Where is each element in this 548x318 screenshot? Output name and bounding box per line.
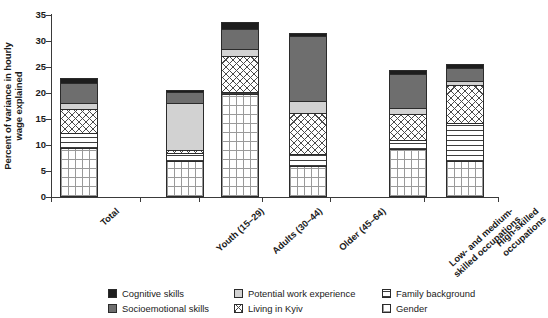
x-axis-label-line: Youth (15–29) (214, 206, 266, 254)
legend-item-pot[interactable]: Potential work experience (234, 286, 382, 301)
bar-segment-gen[interactable] (289, 166, 327, 197)
x-axis-label-3: Older (45–64) (337, 206, 388, 253)
bar-segment-soc[interactable] (446, 68, 484, 81)
x-axis-label-line: Older (45–64) (337, 206, 388, 253)
x-axis-label-1: Youth (15–29) (214, 206, 266, 254)
bar-segment-kyiv[interactable] (389, 114, 427, 140)
legend-swatch-cog-icon (108, 289, 117, 298)
y-tick-10 (46, 145, 51, 146)
bar-segment-fam[interactable] (166, 153, 204, 161)
legend-swatch-gen-icon (382, 304, 391, 313)
bar-segment-gen[interactable] (389, 149, 427, 197)
y-tick-label-35: 35 (6, 9, 46, 20)
legend-label: Socioemotional skills (122, 303, 209, 314)
bar-segment-fam[interactable] (446, 123, 484, 161)
y-tick-30 (46, 41, 51, 42)
y-tick-35 (46, 15, 51, 16)
bar-segment-cog[interactable] (221, 22, 259, 29)
bar-segment-cog[interactable] (289, 33, 327, 36)
legend-label: Cognitive skills (122, 288, 184, 299)
bar-segment-gen[interactable] (60, 148, 98, 197)
bar-segment-cog[interactable] (446, 64, 484, 68)
y-tick-label-15: 15 (6, 113, 46, 124)
bar-segment-pot[interactable] (289, 101, 327, 113)
x-tick-5 (424, 197, 425, 202)
x-tick-3 (262, 197, 263, 202)
legend-swatch-fam-icon (382, 289, 391, 298)
legend-item-fam[interactable]: Family background (382, 286, 506, 301)
bar-segment-pot[interactable] (446, 81, 484, 86)
bar-segment-gen[interactable] (166, 161, 204, 197)
bar-2[interactable] (221, 0, 259, 197)
legend-item-gen[interactable]: Gender (382, 301, 506, 316)
bar-segment-fam[interactable] (289, 154, 327, 165)
x-axis-label-line: Adults (30–44) (270, 206, 324, 256)
bar-segment-gen[interactable] (221, 94, 259, 197)
bar-segment-kyiv[interactable] (289, 113, 327, 154)
bar-segment-kyiv[interactable] (221, 56, 259, 93)
legend-label: Living in Kyiv (248, 303, 303, 314)
y-tick-label-30: 30 (6, 35, 46, 46)
bar-segment-soc[interactable] (289, 36, 327, 101)
bar-segment-pot[interactable] (166, 103, 204, 150)
legend-label: Gender (396, 303, 427, 314)
x-axis-label-0: Total (99, 206, 122, 228)
x-axis-label-2: Adults (30–44) (270, 206, 324, 256)
bar-segment-fam[interactable] (221, 92, 259, 94)
y-tick-label-5: 5 (6, 165, 46, 176)
y-tick-label-25: 25 (6, 61, 46, 72)
x-tick-6 (498, 197, 499, 202)
legend-label: Family background (396, 288, 475, 299)
bar-segment-kyiv[interactable] (446, 85, 484, 123)
bar-segment-cog[interactable] (60, 78, 98, 83)
legend-item-soc[interactable]: Socioemotional skills (108, 301, 234, 316)
bar-segment-pot[interactable] (221, 49, 259, 56)
bar-segment-gen[interactable] (446, 161, 484, 197)
bar-segment-pot[interactable] (389, 108, 427, 114)
legend-swatch-kyiv-icon (234, 304, 243, 313)
legend-item-kyiv[interactable]: Living in Kyiv (234, 301, 382, 316)
bar-segment-soc[interactable] (60, 83, 98, 103)
bar-segment-soc[interactable] (221, 29, 259, 49)
y-tick-label-0: 0 (6, 191, 46, 202)
y-tick-label-20: 20 (6, 87, 46, 98)
y-tick-5 (46, 171, 51, 172)
bar-segment-kyiv[interactable] (166, 150, 204, 153)
bar-segment-fam[interactable] (60, 133, 98, 148)
y-tick-25 (46, 67, 51, 68)
x-tick-2 (199, 197, 200, 202)
y-tick-15 (46, 119, 51, 120)
bar-0[interactable] (60, 0, 98, 197)
bar-segment-pot[interactable] (60, 103, 98, 109)
x-tick-4 (330, 197, 331, 202)
y-tick-label-10: 10 (6, 139, 46, 150)
bar-1[interactable] (166, 0, 204, 197)
legend-label: Potential work experience (248, 288, 355, 299)
x-tick-0 (51, 197, 52, 202)
chart-legend: Cognitive skillsPotential work experienc… (108, 286, 506, 316)
bar-3[interactable] (289, 0, 327, 197)
y-tick-20 (46, 93, 51, 94)
bar-4[interactable] (389, 0, 427, 197)
x-axis-line (51, 197, 499, 198)
bar-segment-kyiv[interactable] (60, 109, 98, 133)
legend-swatch-pot-icon (234, 289, 243, 298)
bar-5[interactable] (446, 0, 484, 197)
legend-swatch-soc-icon (108, 304, 117, 313)
legend-item-cog[interactable]: Cognitive skills (108, 286, 234, 301)
bar-segment-soc[interactable] (166, 92, 204, 103)
bar-segment-soc[interactable] (389, 74, 427, 108)
x-tick-1 (140, 197, 141, 202)
x-axis-label-line: Total (99, 206, 122, 228)
bar-segment-fam[interactable] (389, 140, 427, 149)
bar-segment-cog[interactable] (389, 70, 427, 74)
y-axis-line (51, 14, 52, 198)
bar-segment-cog[interactable] (166, 90, 204, 93)
